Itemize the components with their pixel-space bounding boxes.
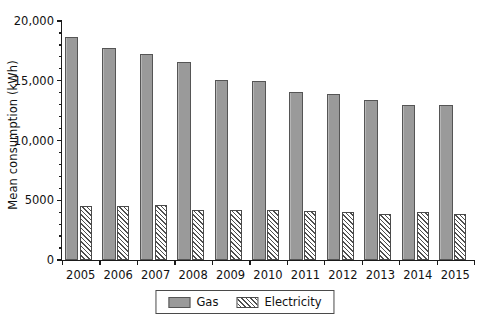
- x-axis-tick-label: 2006: [104, 268, 133, 282]
- x-axis-tick-label: 2014: [403, 268, 432, 282]
- x-axis-tick: [399, 260, 400, 265]
- bar-gas: [364, 100, 378, 260]
- legend-label-gas: Gas: [196, 295, 218, 309]
- bar-chart-figure: Mean consumption (kWh) 0500010,00015,000…: [0, 0, 490, 324]
- y-axis-tick-label: 10,000: [14, 134, 54, 148]
- legend-item-electricity: Electricity: [236, 295, 321, 309]
- bar-gas: [215, 80, 229, 260]
- legend-label-electricity: Electricity: [264, 295, 321, 309]
- bar-electricity: [342, 212, 354, 260]
- x-axis-tick-label: 2011: [291, 268, 320, 282]
- y-axis-tick-label: 15,000: [14, 74, 54, 88]
- x-axis-tick-label: 2015: [441, 268, 470, 282]
- bar-gas: [439, 105, 453, 260]
- x-axis-tick: [474, 260, 475, 265]
- bar-electricity: [304, 211, 316, 260]
- x-axis-tick: [212, 260, 213, 265]
- bar-electricity: [379, 214, 391, 260]
- x-axis-tick-label: 2013: [366, 268, 395, 282]
- bar-electricity: [230, 210, 242, 260]
- bar-gas: [402, 105, 416, 260]
- x-axis-tick: [437, 260, 438, 265]
- y-axis-tick-label: 5000: [25, 193, 54, 207]
- bar-gas: [65, 37, 79, 260]
- x-axis-tick: [287, 260, 288, 265]
- x-axis-tick-label: 2010: [253, 268, 282, 282]
- legend-swatch-gas-icon: [168, 297, 190, 308]
- x-axis-tick: [362, 260, 363, 265]
- plot-area: [62, 21, 474, 260]
- x-axis-tick-label: 2005: [66, 268, 95, 282]
- x-axis-tick-label: 2008: [178, 268, 207, 282]
- bar-gas: [102, 48, 116, 260]
- x-axis-tick: [62, 260, 63, 265]
- x-axis-tick: [249, 260, 250, 265]
- bar-gas: [140, 54, 154, 260]
- bar-gas: [327, 94, 341, 260]
- bar-gas: [289, 92, 303, 260]
- y-axis-tick-label: 20,000: [14, 14, 54, 28]
- chart-legend: Gas Electricity: [155, 290, 334, 314]
- bar-electricity: [192, 210, 204, 260]
- legend-swatch-electricity-icon: [236, 297, 258, 308]
- bar-electricity: [267, 210, 279, 260]
- bar-electricity: [117, 206, 129, 260]
- x-axis-tick-label: 2009: [216, 268, 245, 282]
- x-axis-tick: [174, 260, 175, 265]
- legend-item-gas: Gas: [168, 295, 218, 309]
- bar-electricity: [80, 206, 92, 260]
- x-axis-tick: [99, 260, 100, 265]
- bar-electricity: [417, 212, 429, 260]
- x-axis-tick: [137, 260, 138, 265]
- x-axis-tick-label: 2012: [328, 268, 357, 282]
- bar-electricity: [454, 214, 466, 260]
- bar-electricity: [155, 205, 167, 260]
- bar-gas: [252, 81, 266, 260]
- y-axis-tick-label: 0: [47, 253, 54, 267]
- x-axis-tick-label: 2007: [141, 268, 170, 282]
- x-axis-tick: [324, 260, 325, 265]
- bar-gas: [177, 62, 191, 260]
